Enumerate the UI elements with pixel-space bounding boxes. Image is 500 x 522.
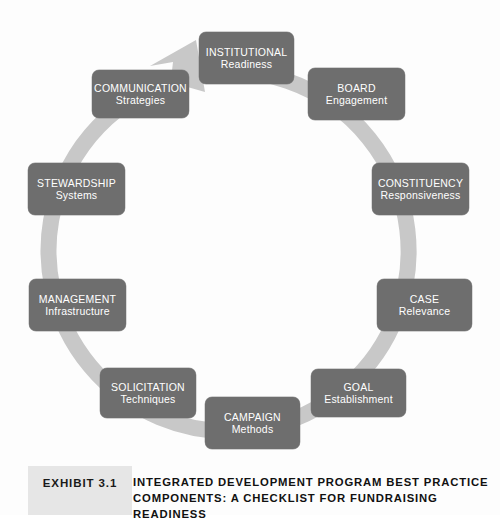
exhibit-title: INTEGRATED DEVELOPMENT PROGRAM BEST PRAC…	[133, 474, 478, 522]
cycle-node-title: GOAL	[344, 381, 374, 393]
cycle-node-case[interactable]: CASE Relevance	[377, 279, 472, 331]
cycle-node-title: SOLICITATION	[111, 381, 185, 393]
cycle-node-constituency[interactable]: CONSTITUENCY Responsiveness	[372, 163, 469, 215]
cycle-node-title: CAMPAIGN	[224, 411, 281, 423]
exhibit-title-line-2: COMPONENTS: A CHECKLIST FOR FUNDRAISING	[133, 490, 478, 506]
cycle-node-subtitle: Systems	[56, 189, 98, 201]
cycle-node-title: MANAGEMENT	[39, 293, 116, 305]
cycle-node-subtitle: Engagement	[326, 94, 388, 106]
exhibit-title-line-3: READINESS	[133, 506, 478, 522]
cycle-node-title: STEWARDSHIP	[37, 177, 116, 189]
cycle-node-stewardship[interactable]: STEWARDSHIP Systems	[28, 163, 125, 215]
cycle-node-communication[interactable]: COMMUNICATION Strategies	[92, 70, 189, 118]
cycle-node-subtitle: Methods	[232, 423, 274, 435]
cycle-node-title: INSTITUTIONAL	[206, 46, 287, 58]
cycle-node-board[interactable]: BOARD Engagement	[308, 68, 405, 120]
cycle-node-title: CONSTITUENCY	[378, 177, 463, 189]
cycle-node-title: BOARD	[337, 82, 375, 94]
cycle-node-solicitation[interactable]: SOLICITATION Techniques	[100, 368, 196, 418]
cycle-diagram: INSTITUTIONAL Readiness BOARD Engagement…	[0, 0, 500, 460]
cycle-node-subtitle: Establishment	[324, 393, 393, 405]
exhibit-caption: EXHIBIT 3.1 INTEGRATED DEVELOPMENT PROGR…	[0, 460, 500, 515]
exhibit-number-chip: EXHIBIT 3.1	[28, 466, 132, 515]
cycle-node-management[interactable]: MANAGEMENT Infrastructure	[29, 279, 126, 331]
cycle-node-campaign[interactable]: CAMPAIGN Methods	[205, 397, 300, 449]
cycle-node-subtitle: Strategies	[116, 94, 165, 106]
cycle-node-subtitle: Relevance	[399, 305, 450, 317]
cycle-node-subtitle: Infrastructure	[45, 305, 110, 317]
exhibit-title-line-1: INTEGRATED DEVELOPMENT PROGRAM BEST PRAC…	[133, 474, 478, 490]
cycle-node-title: CASE	[410, 293, 439, 305]
cycle-node-institutional[interactable]: INSTITUTIONAL Readiness	[199, 32, 294, 84]
cycle-node-subtitle: Readiness	[221, 58, 272, 70]
exhibit-number-label: EXHIBIT 3.1	[43, 477, 117, 489]
cycle-node-title: COMMUNICATION	[94, 82, 187, 94]
cycle-node-subtitle: Responsiveness	[381, 189, 461, 201]
cycle-node-goal[interactable]: GOAL Establishment	[311, 369, 406, 417]
cycle-node-subtitle: Techniques	[120, 393, 175, 405]
